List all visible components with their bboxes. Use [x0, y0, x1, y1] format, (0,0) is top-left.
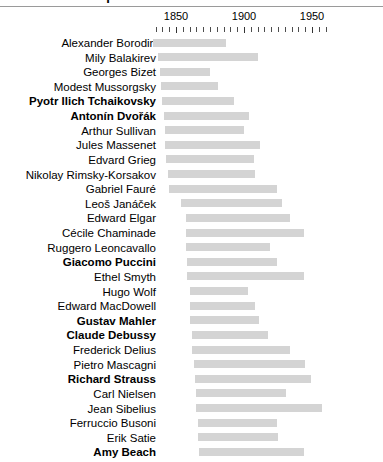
lifespan-bar[interactable] — [165, 126, 244, 134]
lifespan-bar[interactable] — [196, 389, 286, 397]
composer-row[interactable]: Hugo Wolf — [0, 285, 383, 300]
axis-tick-1910 — [258, 27, 259, 32]
composer-name-label: Giacomo Puccini — [0, 255, 160, 269]
composer-row[interactable]: Antonín Dvořák — [0, 109, 383, 124]
axis-tick-1900 — [244, 27, 245, 33]
composer-name-label: Antonín Dvořák — [0, 109, 160, 123]
lifespan-bar[interactable] — [165, 141, 260, 149]
axis-label-1950: 1950 — [300, 10, 324, 23]
composer-row[interactable]: Gustav Mahler — [0, 314, 383, 329]
composer-row[interactable]: Gabriel Fauré — [0, 182, 383, 197]
axis-tick-1925 — [278, 27, 279, 32]
composer-row[interactable]: Edward MacDowell — [0, 299, 383, 314]
lifespan-bar[interactable] — [199, 448, 304, 456]
composer-name-label: Jean Sibelius — [0, 402, 160, 416]
composer-row[interactable]: Amy Beach — [0, 445, 383, 460]
lifespan-bar[interactable] — [153, 39, 226, 47]
composer-row[interactable]: Modest Mussorgsky — [0, 80, 383, 95]
lifespan-bar[interactable] — [166, 155, 253, 163]
composer-row[interactable]: Nikolay Rimsky-Korsakov — [0, 168, 383, 183]
time-axis: 185019001950 — [0, 10, 383, 36]
chart-title: Composers of the Late Romantic Era — [0, 0, 383, 3]
lifespan-bar[interactable] — [195, 375, 311, 383]
composer-name-label: Amy Beach — [0, 445, 160, 459]
composer-name-label: Leoš Janáček — [0, 197, 160, 211]
axis-tick-1930 — [285, 27, 286, 32]
composer-name-label: Claude Debussy — [0, 328, 160, 342]
lifespan-bar[interactable] — [181, 199, 282, 207]
lifespan-bar[interactable] — [190, 302, 255, 310]
composer-row[interactable]: Edvard Grieg — [0, 153, 383, 168]
composer-name-label: Jules Massenet — [0, 138, 160, 152]
composer-row[interactable]: Giacomo Puccini — [0, 255, 383, 270]
lifespan-bar[interactable] — [190, 287, 248, 295]
composer-name-label: Gabriel Fauré — [0, 182, 160, 196]
composer-name-label: Ethel Smyth — [0, 270, 160, 284]
composer-row[interactable]: Ferruccio Busoni — [0, 416, 383, 431]
composer-row[interactable]: Edward Elgar — [0, 211, 383, 226]
lifespan-bar[interactable] — [186, 243, 270, 251]
composer-name-label: Ferruccio Busoni — [0, 416, 160, 430]
lifespan-bar[interactable] — [158, 53, 257, 61]
composer-lifespan-chart: Composers of the Late Romantic Era 18501… — [0, 0, 383, 462]
axis-tick-1875 — [210, 27, 211, 32]
axis-label-1850: 1850 — [164, 10, 188, 23]
composer-name-label: Hugo Wolf — [0, 285, 160, 299]
composer-name-label: Arthur Sullivan — [0, 124, 160, 138]
lifespan-bar[interactable] — [160, 68, 210, 76]
axis-tick-1960 — [326, 27, 327, 32]
axis-tick-1840 — [162, 27, 163, 32]
composer-row[interactable]: Pietro Mascagni — [0, 358, 383, 373]
composer-row[interactable]: Frederick Delius — [0, 343, 383, 358]
composer-row[interactable]: Leoš Janáček — [0, 197, 383, 212]
composer-name-label: Richard Strauss — [0, 372, 160, 386]
axis-tick-1865 — [196, 27, 197, 32]
lifespan-bar[interactable] — [186, 229, 304, 237]
composer-rows: Alexander BorodinMily BalakirevGeorges B… — [0, 36, 383, 462]
axis-tick-1850 — [176, 27, 177, 33]
lifespan-bar[interactable] — [168, 170, 255, 178]
composer-name-label: Pietro Mascagni — [0, 358, 160, 372]
axis-tick-1895 — [237, 27, 238, 32]
lifespan-bar[interactable] — [196, 404, 321, 412]
composer-row[interactable]: Claude Debussy — [0, 328, 383, 343]
axis-tick-1905 — [251, 27, 252, 32]
composer-row[interactable]: Richard Strauss — [0, 372, 383, 387]
lifespan-bar[interactable] — [190, 316, 259, 324]
composer-row[interactable]: Erik Satie — [0, 431, 383, 446]
composer-name-label: Alexander Borodin — [0, 36, 160, 50]
lifespan-bar[interactable] — [169, 185, 276, 193]
composer-name-label: Frederick Delius — [0, 343, 160, 357]
composer-row[interactable]: Arthur Sullivan — [0, 124, 383, 139]
composer-row[interactable]: Alexander Borodin — [0, 36, 383, 51]
composer-name-label: Edward Elgar — [0, 211, 160, 225]
lifespan-bar[interactable] — [187, 272, 304, 280]
lifespan-bar[interactable] — [192, 346, 290, 354]
lifespan-bar[interactable] — [187, 258, 277, 266]
lifespan-bar[interactable] — [164, 112, 250, 120]
axis-tick-1920 — [271, 27, 272, 32]
composer-name-label: Nikolay Rimsky-Korsakov — [0, 168, 160, 182]
composer-row[interactable]: Carl Nielsen — [0, 387, 383, 402]
lifespan-bar[interactable] — [162, 97, 234, 105]
composer-row[interactable]: Georges Bizet — [0, 65, 383, 80]
composer-name-label: Edward MacDowell — [0, 299, 160, 313]
lifespan-bar[interactable] — [186, 214, 291, 222]
axis-tick-1855 — [183, 27, 184, 32]
axis-tick-1955 — [319, 27, 320, 32]
lifespan-bar[interactable] — [192, 331, 268, 339]
composer-row[interactable]: Ethel Smyth — [0, 270, 383, 285]
composer-name-label: Cécile Chaminade — [0, 226, 160, 240]
composer-row[interactable]: Cécile Chaminade — [0, 226, 383, 241]
composer-row[interactable]: Mily Balakirev — [0, 51, 383, 66]
composer-row[interactable]: Jean Sibelius — [0, 402, 383, 417]
lifespan-bar[interactable] — [198, 419, 277, 427]
composer-row[interactable]: Ruggero Leoncavallo — [0, 241, 383, 256]
lifespan-bar[interactable] — [198, 433, 278, 441]
composer-row[interactable]: Jules Massenet — [0, 138, 383, 153]
lifespan-bar[interactable] — [194, 360, 306, 368]
composer-name-label: Mily Balakirev — [0, 51, 160, 65]
axis-tick-1940 — [298, 27, 299, 32]
composer-row[interactable]: Pyotr Ilich Tchaikovsky — [0, 94, 383, 109]
lifespan-bar[interactable] — [161, 82, 218, 90]
